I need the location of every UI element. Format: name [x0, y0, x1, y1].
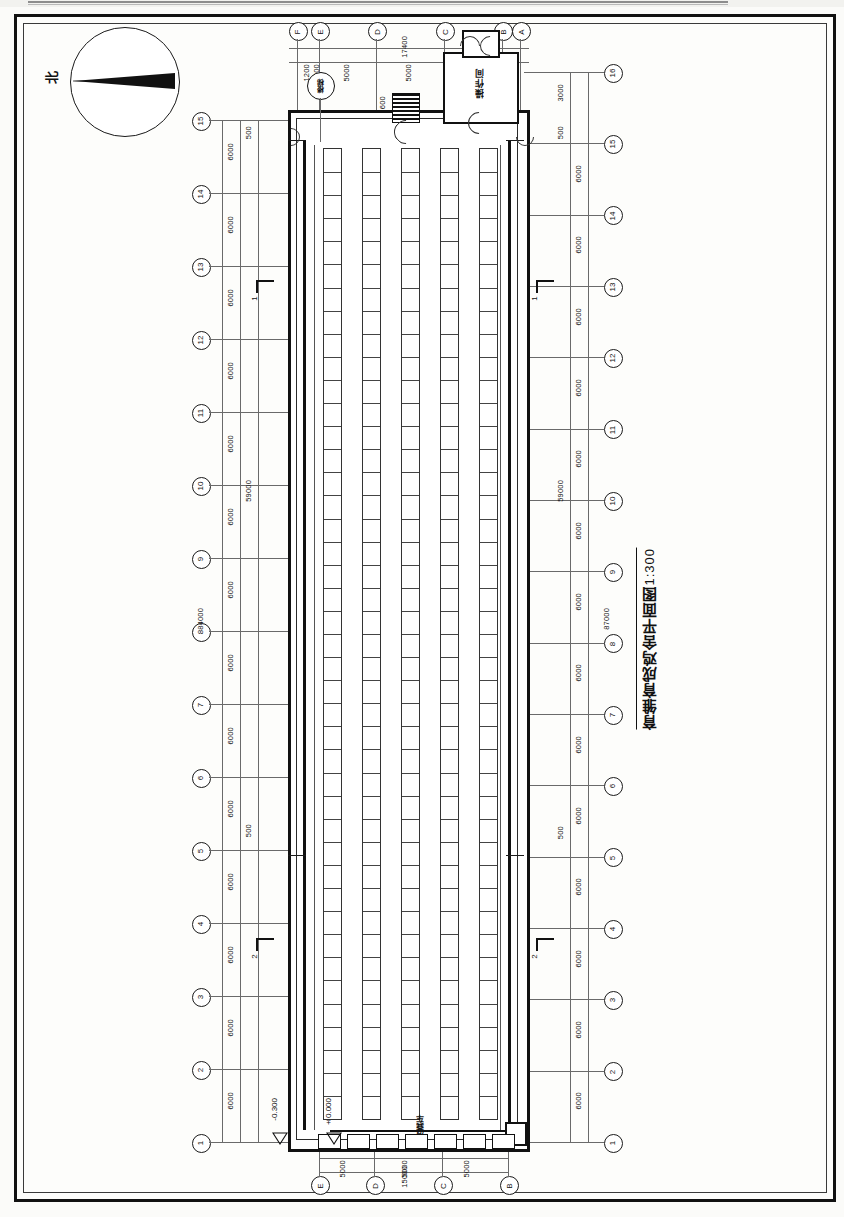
- cage-unit-divider: [324, 749, 341, 750]
- dim-right-offset-500: 500: [556, 126, 565, 139]
- wall-cap-sw: [288, 855, 306, 856]
- cage-unit-divider: [363, 1050, 380, 1051]
- bottom-opening: [347, 1134, 370, 1149]
- cage-unit-divider: [480, 195, 497, 196]
- cage-unit-divider: [363, 565, 380, 566]
- grid-bubble-left-label: 2: [197, 1068, 205, 1072]
- dim-right-bay-11: 6000: [574, 450, 583, 468]
- cage-unit-divider: [363, 241, 380, 242]
- cage-unit-divider: [402, 1027, 419, 1028]
- cage-unit-divider: [363, 749, 380, 750]
- cage-unit-divider: [324, 357, 341, 358]
- elevation-triangle-inner: [326, 1132, 342, 1146]
- cage-unit-divider: [441, 1096, 458, 1097]
- cage-unit-divider: [480, 588, 497, 589]
- cage-unit-divider: [480, 819, 497, 820]
- cage-unit-divider: [441, 703, 458, 704]
- cage-unit-divider: [402, 426, 419, 427]
- cage-unit-divider: [441, 264, 458, 265]
- dim-right-bay-5: 6000: [574, 878, 583, 896]
- cage-unit-divider: [441, 1027, 458, 1028]
- cage-unit-divider: [402, 519, 419, 520]
- dim-top-5000a: 5000: [342, 64, 351, 82]
- cage-unit-divider: [402, 726, 419, 727]
- grid-bubble-left-14: 14: [192, 185, 211, 204]
- grid-bubble-right-10: 10: [604, 492, 623, 511]
- cage-unit-divider: [402, 934, 419, 935]
- cage-unit-divider: [441, 819, 458, 820]
- cage-unit-divider: [363, 888, 380, 889]
- cage-unit-divider: [402, 773, 419, 774]
- cage-unit-divider: [324, 311, 341, 312]
- cage-unit-divider: [441, 680, 458, 681]
- cage-unit-divider: [441, 1050, 458, 1051]
- cage-unit-divider: [441, 1073, 458, 1074]
- cage-unit-divider: [480, 218, 497, 219]
- dim-rail-left-outer: [222, 120, 223, 1142]
- cage-unit-divider: [402, 957, 419, 958]
- cage-unit-divider: [402, 865, 419, 866]
- dim-left-bay-9: 6000: [226, 581, 235, 599]
- dim-right-bay-6: 6000: [574, 807, 583, 825]
- cage-unit-divider: [363, 195, 380, 196]
- cage-unit-divider: [480, 1096, 497, 1097]
- cage-unit-divider: [480, 980, 497, 981]
- cage-unit-divider: [324, 957, 341, 958]
- dim-left-bay-5: 6000: [226, 873, 235, 891]
- cage-unit-divider: [324, 934, 341, 935]
- cage-unit-divider: [441, 634, 458, 635]
- cage-unit-divider: [441, 980, 458, 981]
- section-mark-2-right-label: 2: [530, 954, 539, 958]
- dim-right-bay-3: 6000: [574, 1021, 583, 1039]
- dim-left-offset-500b: 500: [244, 824, 253, 837]
- dim-door-600: 600: [378, 96, 387, 109]
- cage-unit-divider: [480, 426, 497, 427]
- grid-line-right-7: [524, 714, 604, 715]
- dim-right-bay-4: 6000: [574, 950, 583, 968]
- grid-bubble-left-11: 11: [192, 404, 211, 423]
- cage-unit-divider: [480, 172, 497, 173]
- cage-unit-divider: [402, 241, 419, 242]
- cage-unit-divider: [402, 403, 419, 404]
- grid-bubble-right-label: 3: [609, 998, 617, 1002]
- cage-unit-divider: [324, 888, 341, 889]
- cage-unit-divider: [363, 357, 380, 358]
- cage-unit-divider: [402, 1004, 419, 1005]
- operation-room-label: 操作间: [472, 68, 485, 98]
- scan-line-light: [28, 4, 728, 5]
- cage-unit-divider: [324, 1073, 341, 1074]
- cage-unit-divider: [324, 264, 341, 265]
- grid-bubble-left-label: 15: [198, 117, 206, 126]
- cage-unit-divider: [441, 380, 458, 381]
- grid-bubble-right-label: 13: [610, 283, 618, 292]
- cage-unit-divider: [402, 472, 419, 473]
- cage-unit-divider: [324, 334, 341, 335]
- cage-unit-divider: [441, 726, 458, 727]
- grid-bubble-left-6: 6: [192, 769, 211, 788]
- cage-unit-divider: [363, 380, 380, 381]
- grid-bubble-left-1: 1: [192, 1134, 211, 1153]
- grid-bubble-right-label: 6: [609, 784, 617, 788]
- grid-bubble-left-label: 1: [197, 1141, 205, 1145]
- cage-row-5: [479, 148, 498, 1120]
- cage-unit-divider: [324, 403, 341, 404]
- dim-left-bay-7: 6000: [226, 727, 235, 745]
- grid-bubble-left-label: 10: [198, 482, 206, 491]
- cage-unit-divider: [402, 749, 419, 750]
- grid-bubble-right-7: 7: [604, 706, 623, 725]
- cage-row-4: [440, 148, 459, 1120]
- cage-unit-divider: [402, 264, 419, 265]
- cage-unit-divider: [324, 218, 341, 219]
- cage-unit-divider: [441, 218, 458, 219]
- cage-unit-divider: [441, 888, 458, 889]
- cage-unit-divider: [402, 634, 419, 635]
- elevation-label-zero: ±0.000: [324, 1098, 333, 1127]
- cage-unit-divider: [363, 796, 380, 797]
- dim-left-bay-4: 6000: [226, 946, 235, 964]
- north-label: 北: [41, 71, 60, 84]
- cage-unit-divider: [441, 865, 458, 866]
- cage-unit-divider: [402, 495, 419, 496]
- cage-unit-divider: [324, 588, 341, 589]
- dim-right-bay-10: 6000: [574, 522, 583, 540]
- cage-unit-divider: [441, 773, 458, 774]
